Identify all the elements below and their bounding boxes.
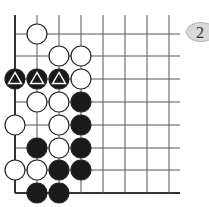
white-stone bbox=[49, 92, 69, 112]
black-stone bbox=[27, 138, 47, 158]
black-stone bbox=[27, 183, 47, 203]
problem-number: 2 bbox=[196, 24, 204, 42]
black-stone bbox=[71, 160, 91, 180]
white-stone bbox=[49, 115, 69, 135]
problem-number-badge: 2 bbox=[186, 22, 209, 42]
black-stone bbox=[49, 160, 69, 180]
white-stone bbox=[49, 46, 69, 66]
white-stone bbox=[5, 115, 25, 135]
black-stone bbox=[71, 138, 91, 158]
white-stone bbox=[49, 138, 69, 158]
white-stone bbox=[27, 24, 47, 44]
black-stone bbox=[71, 115, 91, 135]
white-stone bbox=[5, 160, 25, 180]
black-stone bbox=[71, 92, 91, 112]
go-board bbox=[0, 0, 209, 207]
white-stone bbox=[71, 69, 91, 89]
white-stone bbox=[71, 46, 91, 66]
white-stone bbox=[27, 160, 47, 180]
black-stone bbox=[49, 183, 69, 203]
white-stone bbox=[27, 92, 47, 112]
